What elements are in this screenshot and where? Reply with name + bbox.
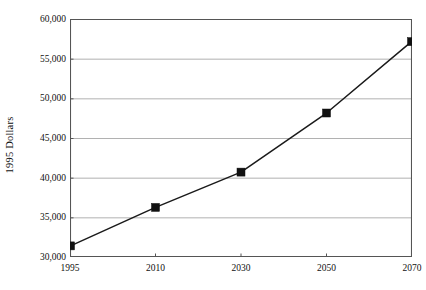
x-axis-tick-label: 2070 [384, 263, 426, 274]
plot-area [70, 19, 412, 257]
x-axis-tick-labels: 19952010203020502070 [0, 263, 426, 279]
data-point-marker [323, 109, 331, 117]
y-axis-tick-labels: 30,00035,00040,00045,00050,00055,00060,0… [18, 0, 66, 290]
x-axis-tick-label: 2050 [299, 263, 355, 274]
y-axis-tick-label: 45,000 [22, 133, 66, 143]
data-point-marker [237, 168, 245, 176]
x-axis-tick-label: 2030 [213, 263, 269, 274]
y-axis-tick-label: 60,000 [22, 14, 66, 24]
x-axis-tick-label: 1995 [42, 263, 98, 274]
chart-container: 1995 Dollars 30,00035,00040,00045,00050,… [0, 0, 426, 290]
data-point-marker [70, 242, 75, 250]
y-axis-tick-label: 55,000 [22, 54, 66, 64]
data-point-marker [152, 203, 160, 211]
y-axis-tick-label: 40,000 [22, 173, 66, 183]
data-series-line [70, 19, 412, 257]
y-axis-tick-label: 35,000 [22, 212, 66, 222]
y-axis-title: 1995 Dollars [0, 0, 18, 290]
y-axis-tick-label: 30,000 [22, 252, 66, 262]
x-axis-tick-label: 2010 [128, 263, 184, 274]
y-axis-tick-label: 50,000 [22, 93, 66, 103]
series-line [71, 42, 412, 246]
data-point-marker [408, 38, 413, 46]
